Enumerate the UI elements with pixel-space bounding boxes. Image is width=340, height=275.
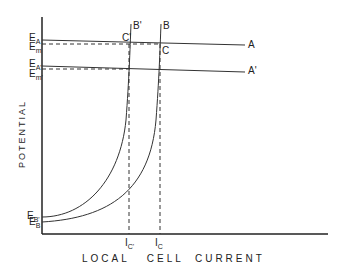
label-Em-prime: Em' bbox=[29, 69, 43, 81]
curve-B bbox=[42, 24, 161, 222]
polarization-diagram: EA Em EA' Em' EB' EB A A' B' B C' C IC' … bbox=[0, 0, 340, 275]
x-axis-label: LOCAL CELL CURRENT bbox=[82, 253, 265, 264]
label-C-prime: C' bbox=[122, 33, 131, 43]
label-A-prime: A' bbox=[248, 66, 257, 76]
y-axis-label: POTENTIAL bbox=[17, 100, 27, 168]
label-C: C bbox=[162, 46, 169, 56]
label-Em: Em bbox=[29, 42, 42, 54]
diagram-canvas bbox=[0, 0, 340, 275]
label-Ic: IC bbox=[155, 238, 163, 250]
label-A: A bbox=[248, 40, 255, 50]
label-Ic-prime: IC' bbox=[125, 238, 134, 250]
curve-B-prime bbox=[42, 24, 131, 217]
label-B-prime: B' bbox=[133, 21, 142, 31]
label-B: B bbox=[163, 21, 170, 31]
label-EB: EB bbox=[29, 217, 40, 229]
